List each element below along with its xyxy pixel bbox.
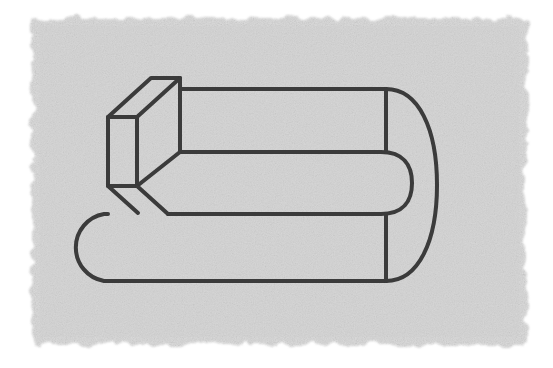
panel-mottle: [40, 26, 519, 337]
panel-mottle-group: [40, 26, 519, 337]
line-drawing-canvas: Three-dimensional line drawing of a hair…: [0, 0, 553, 368]
figure-root: Three-dimensional line drawing of a hair…: [0, 0, 553, 368]
